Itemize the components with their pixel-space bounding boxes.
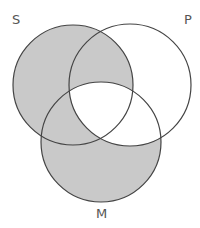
venn-diagram: S P M: [0, 0, 200, 228]
label-p: P: [184, 12, 192, 27]
label-m: M: [96, 206, 107, 221]
label-s: S: [12, 12, 20, 27]
